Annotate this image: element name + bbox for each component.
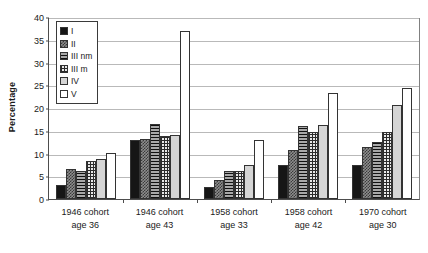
legend-item: IV [60, 75, 92, 88]
bar [160, 136, 170, 199]
bar [66, 169, 76, 199]
bar-groups [49, 18, 419, 199]
x-tick-mark [123, 199, 124, 203]
bar [150, 124, 160, 199]
bar-group [345, 18, 419, 199]
y-tick-label: 10 [34, 150, 44, 160]
x-axis-label: 1958 cohortage 33 [197, 206, 271, 231]
x-axis-label: 1946 cohortage 43 [122, 206, 196, 231]
y-axis-title: Percentage [7, 67, 17, 147]
y-tick-label: 5 [39, 172, 44, 182]
bar [180, 31, 190, 199]
legend-item: III nm [60, 50, 92, 63]
bar [372, 142, 382, 199]
x-axis-label-line: age 42 [271, 219, 345, 232]
bar [170, 135, 180, 199]
bar [318, 125, 328, 199]
bar [278, 165, 288, 199]
x-axis-label-line: 1958 cohort [197, 206, 271, 219]
y-tick-label: 20 [34, 104, 44, 114]
y-tick-label: 25 [34, 81, 44, 91]
x-axis-label-line: 1970 cohort [346, 206, 420, 219]
y-tick-label: 40 [34, 13, 44, 23]
bar-group [123, 18, 197, 199]
bar [392, 105, 402, 199]
bar [244, 165, 254, 199]
bar [140, 139, 150, 200]
x-axis-label-line: 1958 cohort [271, 206, 345, 219]
bar [86, 161, 96, 199]
x-axis-label: 1946 cohortage 36 [48, 206, 122, 231]
legend-item: III m [60, 63, 92, 76]
x-axis-label-line: age 30 [346, 219, 420, 232]
bar [308, 132, 318, 199]
bar [106, 153, 116, 199]
bar [328, 93, 338, 199]
bar [402, 88, 412, 199]
y-tick-label: 15 [34, 127, 44, 137]
bar [298, 126, 308, 199]
legend-item: II [60, 38, 92, 51]
legend-item: V [60, 88, 92, 101]
bar [234, 171, 244, 199]
legend-swatch-icon [60, 90, 68, 98]
bar [352, 165, 362, 199]
legend-item-label: IV [71, 76, 79, 86]
x-axis-label-line: age 33 [197, 219, 271, 232]
legend: IIIIII nmIII mIVV [56, 21, 98, 104]
legend-item-label: II [71, 39, 76, 49]
bar [362, 147, 372, 199]
legend-item-label: I [71, 26, 73, 36]
y-tick-label: 35 [34, 36, 44, 46]
bar [130, 140, 140, 199]
legend-swatch-icon [60, 52, 68, 60]
legend-item-label: III m [71, 64, 88, 74]
bar [382, 132, 392, 199]
x-axis-label-line: age 36 [48, 219, 122, 232]
x-tick-mark [345, 199, 346, 203]
bar [204, 187, 214, 199]
legend-swatch-icon [60, 27, 68, 35]
bar [76, 171, 86, 199]
y-tick-label: 30 [34, 59, 44, 69]
bar [56, 185, 66, 199]
bar-group [197, 18, 271, 199]
legend-swatch-icon [60, 77, 68, 85]
legend-swatch-icon [60, 65, 68, 73]
y-tick-mark [46, 200, 50, 201]
bar-chart: Percentage 0510152025303540 1946 cohorta… [0, 0, 428, 253]
legend-item: I [60, 25, 92, 38]
legend-item-label: V [71, 89, 77, 99]
legend-swatch-icon [60, 40, 68, 48]
x-axis-label: 1970 cohortage 30 [346, 206, 420, 231]
bar [254, 140, 264, 199]
x-axis-labels: 1946 cohortage 361946 cohortage 431958 c… [48, 206, 420, 231]
bar [224, 171, 234, 199]
x-tick-mark [197, 199, 198, 203]
bar [96, 159, 106, 199]
x-axis-label-line: 1946 cohort [48, 206, 122, 219]
legend-item-label: III nm [71, 51, 92, 61]
x-axis-label: 1958 cohortage 42 [271, 206, 345, 231]
bar [288, 150, 298, 199]
y-tick-label: 0 [39, 195, 44, 205]
plot-area: 0510152025303540 [48, 18, 420, 200]
bar-group [271, 18, 345, 199]
x-axis-label-line: 1946 cohort [122, 206, 196, 219]
x-axis-label-line: age 43 [122, 219, 196, 232]
x-tick-mark [271, 199, 272, 203]
bar [214, 180, 224, 199]
